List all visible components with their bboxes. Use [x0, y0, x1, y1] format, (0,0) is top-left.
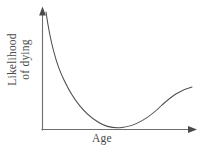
likelihood-curve — [46, 12, 192, 128]
x-axis-label: Age — [0, 132, 204, 145]
figure-container: Likelihood of dying Age — [0, 0, 204, 153]
y-axis-label-line-1: Likelihood — [6, 12, 19, 108]
y-axis-label-line-2: of dying — [18, 12, 31, 108]
plot-area — [0, 0, 204, 153]
y-axis-arrowhead-icon — [39, 7, 46, 16]
y-axis-label: Likelihood of dying — [6, 12, 31, 108]
